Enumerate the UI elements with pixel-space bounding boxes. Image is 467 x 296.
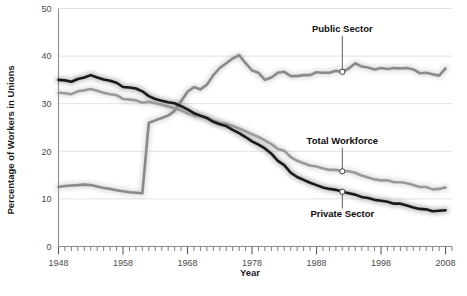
- y-tick-label-50: 50: [41, 4, 51, 14]
- y-tick-label-10: 10: [41, 194, 51, 204]
- x-axis-title: Year: [240, 267, 260, 278]
- x-tick-label-1978: 1978: [242, 258, 262, 268]
- x-tick-label-1968: 1968: [178, 258, 198, 268]
- y-tick-label-30: 30: [41, 99, 51, 109]
- y-tick-label-40: 40: [41, 51, 51, 61]
- series-glow-public-sector: [59, 55, 446, 193]
- x-axis-tick-labels: 1948195819681978198819982008: [48, 258, 455, 268]
- y-tick-label-0: 0: [46, 242, 51, 252]
- union-membership-chart: 01020304050 1948195819681978198819982008…: [0, 0, 467, 296]
- y-axis-title: Percentage of Workers in Unions: [5, 65, 16, 214]
- x-tick-label-1948: 1948: [48, 258, 68, 268]
- annotation-label-total-workforce: Total Workforce: [307, 135, 378, 146]
- annotation-label-public-sector: Public Sector: [312, 23, 373, 34]
- annotation-label-private-sector: Private Sector: [310, 208, 374, 219]
- chart-canvas: 01020304050 1948195819681978198819982008…: [0, 0, 467, 296]
- annotation-marker-total-workforce: [340, 169, 345, 174]
- y-axis-tick-labels: 01020304050: [41, 4, 51, 252]
- x-tick-label-1988: 1988: [307, 258, 327, 268]
- annotation-marker-public-sector: [340, 69, 345, 74]
- gridlines: [59, 9, 453, 199]
- x-tick-label-1998: 1998: [371, 258, 391, 268]
- series-line-public-sector: [59, 55, 446, 193]
- y-tick-label-20: 20: [41, 147, 51, 157]
- annotation-marker-private-sector: [340, 189, 345, 194]
- series-annotations: Public SectorTotal WorkforcePrivate Sect…: [307, 23, 378, 219]
- x-tick-label-2008: 2008: [436, 258, 456, 268]
- x-axis-tick-marks: [59, 247, 453, 255]
- x-tick-label-1958: 1958: [113, 258, 133, 268]
